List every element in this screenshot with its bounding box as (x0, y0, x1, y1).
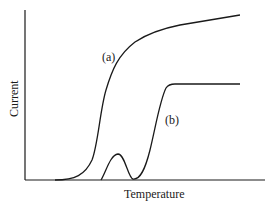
x-axis-label: Temperature (124, 187, 184, 201)
diagram: (a) (b) Temperature Current (0, 0, 273, 208)
y-axis-label: Current (7, 80, 21, 117)
curve-a (55, 15, 240, 180)
curve-a-label: (a) (102, 50, 115, 64)
curve-b-label: (b) (165, 113, 179, 127)
curve-b (101, 84, 240, 180)
